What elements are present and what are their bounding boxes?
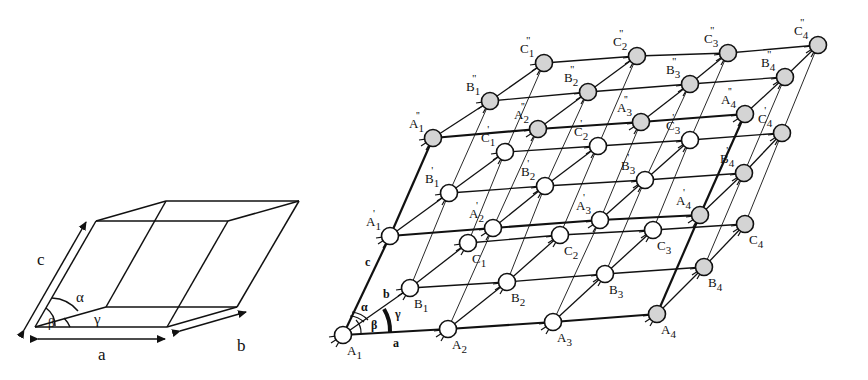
lattice-bond [588,84,690,92]
shaded-atom [530,121,547,138]
node-label: A2'' [514,100,529,125]
node-label: A4 [661,322,676,340]
node-label: C4 [749,232,764,250]
lattice-bond [507,274,605,282]
node-label: B3' [621,151,636,176]
node-label: A1'' [409,109,424,134]
lattice-bond [505,146,598,152]
lattice-bond [605,267,704,274]
lattice-node: A4' [676,186,709,227]
lattice-bond [641,114,745,122]
open-atom [637,172,654,189]
node-label: C2' [574,117,588,142]
lattice-node: C1' [481,123,514,164]
lattice-node: B1' [425,164,458,205]
shaded-atom [649,306,666,323]
node-label: A2 [452,337,467,355]
lattice-bond [544,56,637,63]
b-axis-arrow [180,312,246,331]
lattice-bond [468,235,560,243]
cell-edge [237,201,299,307]
lattice-node: B4'' [761,48,794,89]
lattice-bond [560,230,653,235]
node-label: B3'' [666,55,681,80]
c-label: c [37,250,45,269]
node-label: A4' [676,186,691,211]
node-label: B2 [511,290,525,308]
lattice-c-label: c [365,255,371,269]
shaded-atom [629,48,646,65]
lattice-a-label: a [393,336,399,350]
shaded-atom [737,106,754,123]
lattice-bond [490,92,588,101]
a-label: a [98,345,106,364]
cell-edge [167,221,228,327]
node-label: C3 [657,238,672,256]
shaded-atom [774,125,791,142]
lattice-bond [449,186,545,193]
lattice-bond [343,329,448,335]
lattice-bond [641,84,690,122]
node-label: C2 [564,243,578,261]
shaded-atom [736,165,753,182]
lattice-bond [493,186,545,228]
lattice-node: A4'' [721,85,754,126]
lattice-bond [538,122,641,129]
open-atom [382,228,399,245]
node-label: C3'' [704,24,719,49]
shaded-atom [580,84,597,101]
open-atom [460,235,477,252]
open-atom [499,274,516,291]
open-atom [485,220,502,237]
lattice-bond [645,173,744,180]
lattice-bond [410,243,468,288]
cell-edge [35,221,96,327]
lattice-nodes: A1A2A3A4B1B2B3B4C1C2C3C4A1'A2'A3'A4'B1'B… [329,16,827,361]
cell-edge [96,201,166,221]
lattice-node: B1'' [466,72,499,113]
lattice-node: C1 [454,235,486,270]
lattice-node: A1'' [409,109,442,150]
node-label: A1' [366,207,381,232]
lattice-bond [545,180,645,186]
gamma-arc [64,318,70,327]
lattice-node: C3'' [704,24,737,65]
shaded-atom [720,45,737,62]
node-label: A3' [576,191,591,216]
node-label: C3' [666,111,681,136]
node-label: B4 [708,275,723,293]
alpha-label: α [76,289,84,305]
lattice-b-label: b [383,287,390,301]
lattice-node: B2' [521,157,554,198]
node-label: B4'' [761,48,776,73]
lattice-node: C1'' [520,34,553,75]
open-atom [645,222,662,239]
alpha-arc [52,298,78,311]
b-label: b [237,336,246,355]
node-label: C1'' [520,34,534,59]
lattice-node: B3' [621,151,654,192]
open-atom [590,138,607,155]
crystal-lattice-figure: c a b α β γ A1A2A3A4B1B2B3B4C1C2C3C4A1'A… [0,0,868,380]
shaded-atom [633,114,650,131]
open-atom [440,321,457,338]
node-label: A1 [347,343,362,361]
lattice-node: A1' [366,207,399,248]
c-axis-arrow [24,222,86,330]
lattice-node: B2 [493,274,525,309]
lattice-node: C4'' [794,16,827,57]
lattice-bond [657,267,704,314]
node-label: A2' [469,199,484,224]
lattice-bond [782,45,818,133]
shaded-atom [482,93,499,110]
lattice-node: A3 [539,314,572,349]
open-atom [682,132,699,149]
lattice-bond [600,215,700,220]
lattice-bond [410,282,507,288]
node-label: C2'' [613,27,627,52]
shaded-atom [682,76,699,93]
lattice-angle-marks [350,309,390,333]
open-atom [545,314,562,331]
beta-label: β [48,315,55,330]
lattice-bond [390,138,433,236]
